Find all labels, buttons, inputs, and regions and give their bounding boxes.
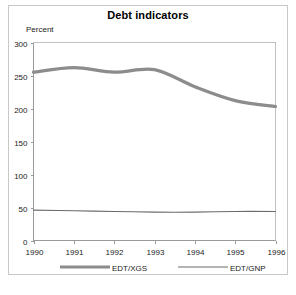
- x-tick-label: 1991: [66, 248, 84, 257]
- y-tick-label: 150: [14, 139, 28, 148]
- y-tick-label: 0: [23, 238, 28, 247]
- y-tick-label: 250: [14, 73, 28, 82]
- plot-area: 050100150200250300 199019911992199319941…: [0, 0, 296, 295]
- x-tick-label: 1996: [268, 248, 286, 257]
- chart-figure: Debt indicators Percent 0501001502002503…: [0, 0, 296, 295]
- x-tick-label: 1992: [106, 248, 124, 257]
- series-line-edt-xgs: [34, 68, 276, 107]
- y-tick-label: 300: [14, 40, 28, 49]
- x-axis-ticks: 1990199119921993199419951996: [26, 241, 286, 257]
- x-tick-label: 1993: [147, 248, 165, 257]
- x-tick-label: 1994: [187, 248, 205, 257]
- legend-label: EDT/GNP: [230, 264, 266, 273]
- y-tick-label: 50: [19, 205, 28, 214]
- x-tick-label: 1990: [26, 248, 44, 257]
- data-series-layer: [34, 68, 276, 213]
- y-axis-ticks: 050100150200250300: [14, 40, 33, 247]
- chart-legend: EDT/XGSEDT/GNP: [60, 264, 266, 273]
- y-tick-label: 200: [14, 106, 28, 115]
- x-tick-label: 1995: [227, 248, 245, 257]
- legend-label: EDT/XGS: [112, 264, 147, 273]
- series-line-edt-gnp: [34, 210, 276, 212]
- y-tick-label: 100: [14, 172, 28, 181]
